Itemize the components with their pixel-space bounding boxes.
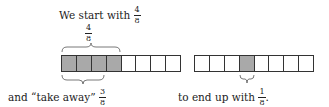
fraction-numerator: 4 bbox=[85, 24, 92, 34]
bar-cell-shaded bbox=[107, 56, 122, 71]
fraction-denominator: 8 bbox=[100, 98, 105, 107]
top-label-fraction: 4 8 bbox=[134, 6, 141, 25]
fraction-numerator: 3 bbox=[99, 88, 106, 98]
bottom-left-fraction: 3 8 bbox=[99, 88, 106, 107]
bar-cell bbox=[151, 56, 166, 71]
bottom-left-label-text: and “take away” bbox=[8, 91, 96, 103]
bar-cell bbox=[299, 56, 313, 71]
period: . bbox=[266, 91, 269, 103]
top-label: We start with 4 8 bbox=[59, 6, 141, 25]
right-fraction-bar bbox=[194, 55, 314, 72]
bottom-left-brace bbox=[61, 75, 106, 85]
fraction-numerator: 4 bbox=[134, 6, 141, 16]
bar-cell bbox=[122, 56, 137, 71]
top-label-text: We start with bbox=[59, 9, 130, 21]
left-fraction-bar bbox=[61, 55, 181, 72]
bar-cell bbox=[225, 56, 240, 71]
bar-cell bbox=[136, 56, 151, 71]
brace-top-fraction: 4 8 bbox=[85, 23, 92, 43]
bar-cell bbox=[195, 56, 210, 71]
bottom-right-brace bbox=[239, 75, 255, 84]
bottom-left-label: and “take away” 3 8 bbox=[8, 88, 106, 107]
bar-cell bbox=[284, 56, 299, 71]
fraction-denominator: 8 bbox=[259, 98, 264, 107]
bar-cell bbox=[269, 56, 284, 71]
fraction-denominator: 8 bbox=[86, 34, 91, 43]
fraction-numerator: 1 bbox=[258, 88, 265, 98]
bottom-right-fraction: 1 8 bbox=[258, 88, 265, 107]
bar-cell bbox=[255, 56, 270, 71]
top-brace bbox=[61, 43, 121, 53]
bar-cell-shaded bbox=[77, 56, 92, 71]
bar-cell bbox=[210, 56, 225, 71]
fraction-denominator: 8 bbox=[135, 16, 140, 25]
bar-cell-shaded bbox=[92, 56, 107, 71]
bottom-right-label: to end up with 1 8 . bbox=[178, 88, 269, 107]
bottom-right-label-text: to end up with bbox=[178, 91, 255, 103]
bar-cell-shaded bbox=[240, 56, 255, 71]
bar-cell-shaded bbox=[62, 56, 77, 71]
bar-cell bbox=[166, 56, 180, 71]
